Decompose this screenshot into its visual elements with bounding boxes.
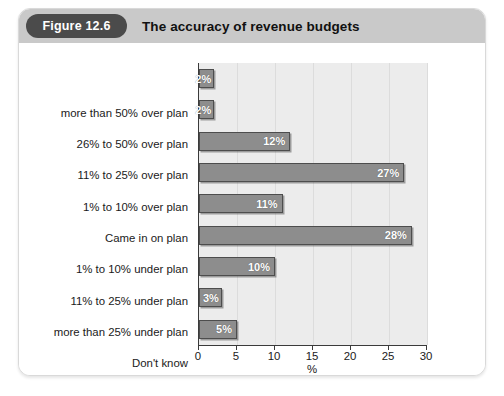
- bar-row: 27%: [199, 157, 427, 188]
- category-label: 1% to 10% under plan: [76, 254, 188, 285]
- bar-row: 11%: [199, 188, 427, 219]
- figure-header: Figure 12.6 The accuracy of revenue budg…: [19, 9, 485, 43]
- bar-value-label: 2%: [195, 104, 213, 116]
- category-label: 26% to 50% over plan: [77, 128, 188, 159]
- bar[interactable]: 27%: [199, 163, 404, 182]
- x-tick-label: 30: [420, 350, 433, 362]
- bar-row: 2%: [199, 63, 427, 94]
- chart-area: more than 50% over plan26% to 50% over p…: [19, 43, 485, 376]
- category-label: Came in on plan: [105, 222, 188, 253]
- x-tick-label: 0: [195, 350, 201, 362]
- bar-row: 12%: [199, 126, 427, 157]
- bar-row: 5%: [199, 314, 427, 345]
- bar[interactable]: 5%: [199, 320, 237, 339]
- category-label: 11% to 25% over plan: [77, 160, 188, 191]
- bar-value-label: 2%: [195, 73, 213, 85]
- x-tick-label: 5: [233, 350, 239, 362]
- bar-value-label: 28%: [385, 229, 411, 241]
- bar-rows: 2%2%12%27%11%28%10%3%5%: [199, 63, 427, 345]
- bar-value-label: 12%: [263, 135, 289, 147]
- bar[interactable]: 11%: [199, 194, 283, 213]
- bar-row: 2%: [199, 94, 427, 125]
- bar-value-label: 3%: [203, 292, 221, 304]
- bar-row: 3%: [199, 282, 427, 313]
- category-label: 11% to 25% under plan: [70, 285, 188, 316]
- x-axis-title: %: [198, 363, 426, 375]
- bar-row: 10%: [199, 251, 427, 282]
- bar[interactable]: 12%: [199, 132, 290, 151]
- figure-card: Figure 12.6 The accuracy of revenue budg…: [18, 8, 486, 376]
- x-tick-label: 10: [268, 350, 281, 362]
- x-tick-label: 25: [382, 350, 395, 362]
- bar-row: 28%: [199, 220, 427, 251]
- figure-number-badge: Figure 12.6: [26, 14, 127, 38]
- bar[interactable]: 10%: [199, 257, 275, 276]
- plot-area: 2%2%12%27%11%28%10%3%5%: [198, 63, 427, 346]
- x-tick-label: 20: [344, 350, 357, 362]
- category-label: more than 50% over plan: [61, 97, 188, 128]
- bar-value-label: 5%: [216, 323, 236, 335]
- category-label: more than 25% under plan: [54, 316, 188, 347]
- category-label: Don't know: [132, 348, 188, 376]
- x-axis-ticks: 051015202530: [198, 346, 426, 362]
- gridline: [427, 63, 428, 345]
- bar[interactable]: 3%: [199, 288, 222, 307]
- bar-value-label: 11%: [256, 198, 281, 210]
- bar-value-label: 27%: [377, 167, 403, 179]
- x-tick-label: 15: [306, 350, 319, 362]
- category-label: 1% to 10% over plan: [83, 191, 188, 222]
- figure-title: The accuracy of revenue budgets: [142, 19, 360, 34]
- category-axis-labels: more than 50% over plan26% to 50% over p…: [19, 97, 194, 376]
- bar[interactable]: 2%: [199, 69, 214, 88]
- bar[interactable]: 28%: [199, 226, 412, 245]
- bar-value-label: 10%: [248, 261, 274, 273]
- bar[interactable]: 2%: [199, 100, 214, 119]
